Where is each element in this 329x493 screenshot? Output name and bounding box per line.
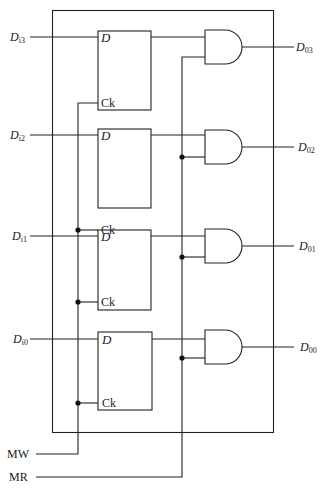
circuit-diagram: D Ck D Ck D Ck D Ck Di3 Di2 Di1 Di0 D03 …	[0, 0, 329, 493]
register-enclosure	[53, 11, 274, 433]
ff1-d-pin: D	[100, 229, 111, 244]
junction-dot	[179, 154, 184, 159]
bit-1	[30, 229, 294, 310]
ff3-d-pin: D	[100, 30, 111, 45]
mw-label: MW	[7, 447, 30, 461]
ff0-ck-pin: Ck	[102, 396, 116, 410]
and-gate-2	[205, 130, 242, 164]
junction-dot	[179, 355, 184, 360]
output-label-d03: D03	[295, 40, 313, 55]
bit-3	[30, 30, 294, 110]
mr-label: MR	[9, 470, 28, 484]
junction-dot	[75, 400, 80, 405]
and-gate-3	[205, 30, 242, 64]
and-gate-1	[205, 229, 242, 263]
ff3-ck-pin: Ck	[101, 96, 115, 110]
and-gate-0	[205, 330, 242, 364]
mw-bus	[36, 103, 98, 454]
output-label-d02: D02	[297, 140, 315, 155]
input-label-di0: Di0	[12, 332, 28, 347]
bit-2	[30, 129, 294, 208]
ff2-d-pin: D	[100, 128, 111, 143]
junction-dot	[75, 299, 80, 304]
junction-dot	[179, 254, 184, 259]
mr-bus	[36, 57, 205, 477]
input-label-di1: Di1	[11, 229, 27, 244]
output-label-d00: D00	[299, 340, 317, 355]
ff1-ck-pin: Ck	[101, 295, 115, 309]
bit-0	[30, 330, 294, 410]
ff0-d-pin: D	[101, 332, 112, 347]
input-label-di2: Di2	[9, 128, 25, 143]
junction-dot	[75, 227, 80, 232]
input-label-di3: Di3	[9, 30, 25, 45]
output-label-d01: D01	[298, 239, 316, 254]
